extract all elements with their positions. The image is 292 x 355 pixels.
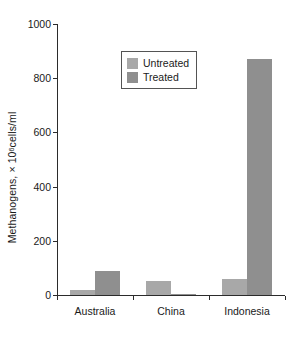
x-category-label-china: China — [157, 305, 184, 317]
y-tick-label-1000: 1000 — [28, 18, 51, 30]
y-tick-800 — [53, 78, 57, 79]
y-tick-600 — [53, 132, 57, 133]
x-tick-3 — [285, 296, 286, 300]
x-tick-0 — [57, 296, 58, 300]
legend-item-treated: Treated — [127, 70, 189, 84]
y-tick-label-400: 400 — [33, 181, 51, 193]
legend-label-untreated: Untreated — [143, 57, 189, 69]
plot-area: 02004006008001000 AustraliaChinaIndonesi… — [57, 24, 285, 295]
bar-indonesia-untreated — [222, 279, 247, 295]
x-category-label-australia: Australia — [75, 305, 116, 317]
y-tick-label-200: 200 — [33, 235, 51, 247]
x-tick-2 — [209, 296, 210, 300]
y-tick-label-800: 800 — [33, 72, 51, 84]
figure-bar-chart: Methanogens, × 106 cells/ml 020040060080… — [0, 0, 292, 355]
y-tick-label-600: 600 — [33, 126, 51, 138]
y-tick-400 — [53, 187, 57, 188]
y-axis-line — [57, 24, 58, 295]
legend: Untreated Treated — [121, 51, 197, 89]
legend-swatch-treated — [127, 72, 138, 83]
legend-swatch-untreated — [127, 58, 138, 69]
bar-indonesia-treated — [247, 59, 272, 295]
y-axis-title-tail: cells/ml — [6, 112, 18, 148]
bar-australia-treated — [95, 271, 120, 295]
bar-australia-untreated — [70, 290, 95, 295]
x-category-label-indonesia: Indonesia — [224, 305, 270, 317]
x-tick-1 — [133, 296, 134, 300]
x-axis-line — [57, 295, 285, 296]
y-axis-title-text: Methanogens, × 10 — [6, 151, 18, 243]
y-tick-1000 — [53, 24, 57, 25]
y-tick-200 — [53, 241, 57, 242]
bar-china-treated — [171, 294, 196, 295]
legend-label-treated: Treated — [143, 71, 179, 83]
bar-china-untreated — [146, 281, 171, 295]
legend-item-untreated: Untreated — [127, 56, 189, 70]
y-axis-title: Methanogens, × 106 cells/ml — [0, 0, 24, 355]
y-tick-label-0: 0 — [45, 289, 51, 301]
